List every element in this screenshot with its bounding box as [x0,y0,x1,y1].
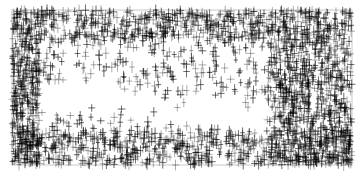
plus-markers [9,4,356,170]
scatter-plot [0,0,356,183]
